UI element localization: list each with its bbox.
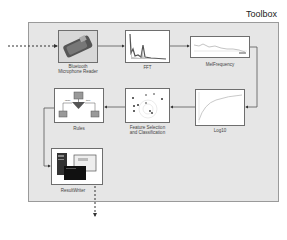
melfrequency-label: MelFrequency (190, 62, 250, 67)
fft-spectrum-icon (126, 31, 169, 62)
bluetooth-label: BluetoothMicrophone Reader (48, 64, 108, 74)
melfrequency-block[interactable] (190, 36, 250, 58)
bluetooth-microphone-reader-block[interactable] (58, 30, 98, 63)
log10-block[interactable] (195, 89, 245, 126)
microphone-device-icon (59, 31, 97, 62)
svg-text:false: false (65, 99, 71, 102)
scatter-cluster-icon (126, 89, 169, 122)
feature-selection-block[interactable] (125, 88, 170, 123)
fft-label: FFT (125, 65, 170, 70)
feature-selection-label: Feature Selectionand Classification (115, 125, 180, 135)
melfrequency-plot-icon (191, 37, 249, 57)
fft-block[interactable] (125, 30, 170, 63)
resultwriter-block[interactable] (51, 148, 103, 185)
resultwriter-label: ResultWriter (51, 188, 95, 193)
log10-label: Log10 (195, 128, 245, 133)
rules-block[interactable]: false true (54, 88, 104, 123)
log10-curve-icon (196, 90, 244, 125)
rules-label: Rules (54, 126, 104, 131)
svg-text:true: true (86, 99, 91, 102)
decision-tree-icon: false true (55, 89, 103, 122)
monitor-windows-icon (52, 149, 102, 184)
